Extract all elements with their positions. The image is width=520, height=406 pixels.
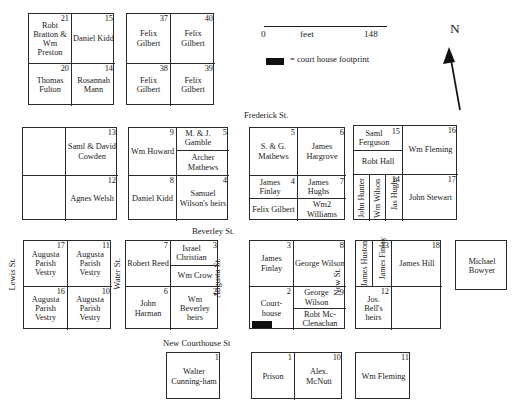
lot-7-james-hughs-wm2-williams[interactable]: James Hughs 7 Wm2 Williams xyxy=(298,176,346,221)
block-cowden-welsh: Saml & David Cowden 13 Agnes Welsh 12 xyxy=(22,127,117,220)
block-michael-bowyer[interactable]: Michael Bowyer xyxy=(455,240,507,290)
lot-owner-bottom: Wm2 Williams xyxy=(299,200,345,219)
lot-owner: George Wilson xyxy=(295,259,345,268)
lot-11-wm-fleming[interactable]: Wm Fleming 11 xyxy=(356,353,411,400)
lot-17-augusta-parish-vestry[interactable]: Augusta Parish Vestry 17 xyxy=(24,241,68,287)
lot-39-felix-gilbert[interactable]: Felix Gilbert 39 xyxy=(171,64,215,106)
lot-strip-james-huston[interactable]: James Huston xyxy=(356,241,373,287)
lot-owner: Court-house xyxy=(251,299,292,318)
lot-37-felix-gilbert[interactable]: Felix Gilbert 37 xyxy=(127,14,171,64)
legend-label: = court house footprint xyxy=(290,55,369,65)
lot-21-robt-bratton-wm-preston[interactable]: Robt Bratton & Wm Preston 21 xyxy=(29,14,72,64)
lot-6-john-harman[interactable]: John Harman 6 xyxy=(126,287,171,330)
lot-16-augusta-parish-vestry[interactable]: Augusta Parish Vestry 16 xyxy=(24,287,68,330)
lot-owner: Rosannah Mann xyxy=(73,76,114,95)
lot-owner: Prison xyxy=(262,372,283,381)
lot-15-daniel-kidd[interactable]: Daniel Kidd 15 xyxy=(72,14,115,64)
lot-owner-bottom: Robt Mc-Clenachan xyxy=(295,310,345,329)
lot-number: 16 xyxy=(57,287,65,297)
street-label-water-st: Water St. xyxy=(113,258,123,290)
lot-owner: James Hargrove xyxy=(299,142,345,161)
lot-10-alex-mcnutt[interactable]: Alex. McNutt 10 xyxy=(295,353,343,400)
lot-strip-wm-wilson[interactable]: Wm Wilson xyxy=(370,175,386,221)
block-walter-cunningham[interactable]: Walter Cunning-ham 1 xyxy=(166,352,220,399)
lot-40-felix-gilbert[interactable]: Felix Gilbert 40 xyxy=(171,14,215,64)
lot-number: 21 xyxy=(61,14,69,24)
lot-number: 13 xyxy=(108,128,116,138)
lot-3-james-finlay[interactable]: James Finlay 3 xyxy=(250,241,294,287)
lot-number: 5 xyxy=(291,128,295,138)
lot-14-rosannah-mann[interactable]: Rosannah Mann 14 xyxy=(72,64,115,106)
street-label-frederick-st: Frederick St. xyxy=(244,111,288,121)
lot-owner-bottom: Felix Gilbert xyxy=(252,205,295,214)
block-prison-mcnutt: Prison 1 Alex. McNutt 10 xyxy=(251,352,342,399)
lot-11-augusta-parish-vestry[interactable]: Augusta Parish Vestry 11 xyxy=(68,241,112,287)
lot-20-thomas-fulton[interactable]: Thomas Fulton 20 xyxy=(29,64,72,106)
lot-4-samuel-wilsons-heirs[interactable]: Samuel Wilson's heirs 4 xyxy=(177,176,229,221)
lot-1-walter-cunningham[interactable]: Walter Cunning-ham 1 xyxy=(167,353,221,400)
lot-empty-cowden-left-bottom[interactable] xyxy=(23,176,66,221)
block-howard-gamble: Wm Howard 9 M. & J. Gamble 5 Archer Math… xyxy=(128,127,228,220)
lot-15-saml-ferguson-robt-hall[interactable]: Saml Ferguson 15 Robt Hall xyxy=(354,126,403,175)
lot-18-james-hill[interactable]: James Hill 18 xyxy=(392,241,442,287)
lot-10-augusta-parish-vestry[interactable]: Augusta Parish Vestry 10 xyxy=(68,287,112,330)
lot-owner: Alex. McNutt xyxy=(296,367,342,386)
lot-number: 4 xyxy=(291,177,295,187)
lot-number: 15 xyxy=(392,127,400,137)
scale-min-label: 0 xyxy=(261,29,266,39)
lot-13-saml-david-cowden[interactable]: Saml & David Cowden 13 xyxy=(66,128,118,176)
lot-number: 11 xyxy=(401,353,409,363)
block-courthouse: James Finlay 3 George Wilson 8 Court-hou… xyxy=(249,240,345,329)
lot-number: 1 xyxy=(215,353,219,363)
lot-owner: Agnes Welsh xyxy=(70,194,114,203)
lot-9-wm-howard[interactable]: Wm Howard 9 xyxy=(129,128,177,176)
block-bratton-kidd: Robt Bratton & Wm Preston 21 Daniel Kidd… xyxy=(28,13,114,105)
lot-owner: Augusta Parish Vestry xyxy=(25,295,66,323)
block-wm-fleming-south[interactable]: Wm Fleming 11 xyxy=(355,352,410,399)
lot-9-george-wilson-robt-mcclenachan[interactable]: George Wilson 9 Robt Mc-Clenachan xyxy=(294,287,346,330)
lot-michael-bowyer[interactable]: Michael Bowyer xyxy=(456,241,508,291)
lot-14-hunter-wilson-hughs[interactable]: 14 John Hunter Wm Wilson Jas Hughs xyxy=(354,175,403,221)
lot-2-wm-beverley-heirs[interactable]: Wm Beverley heirs 2 xyxy=(171,287,219,330)
lot-number: 14 xyxy=(392,175,400,185)
lot-5-s-g-mathews[interactable]: S. & G. Mathews 5 xyxy=(250,128,298,176)
lot-number: 3 xyxy=(213,241,217,251)
lot-number: 7 xyxy=(340,177,344,187)
lot-7-robert-reed[interactable]: Robert Reed 7 xyxy=(126,241,171,287)
lot-owner: Augusta Parish Vestry xyxy=(69,295,111,323)
lot-owner: Robert Reed xyxy=(127,259,169,268)
lot-number: 10 xyxy=(102,287,110,297)
lot-16-wm-fleming[interactable]: Wm Fleming 16 xyxy=(403,126,458,175)
lot-empty-cowden-left-top[interactable] xyxy=(23,128,66,176)
lot-owner-top: James Hughs xyxy=(299,178,345,197)
plat-map-canvas: 0 feet 148 = court house footprint N Fre… xyxy=(0,0,520,406)
lot-1-prison[interactable]: Prison 1 xyxy=(252,353,295,400)
lot-strip-john-hunter[interactable]: John Hunter xyxy=(354,175,370,221)
lot-2-courthouse[interactable]: Court-house 2 xyxy=(250,287,294,330)
lot-owner: Felix Gilbert xyxy=(172,76,214,95)
lot-6-james-hargrove[interactable]: James Hargrove 6 xyxy=(298,128,346,176)
street-label-beverley-st: Beverley St. xyxy=(192,227,234,237)
lot-12-jos-bells-heirs[interactable]: Jos. Bell's heirs 12 xyxy=(356,287,392,330)
lot-number: 17 xyxy=(57,241,65,251)
lot-4-james-finlay-felix-gilbert[interactable]: James Finlay 4 Felix Gilbert xyxy=(250,176,298,221)
lot-number: 40 xyxy=(205,14,213,24)
lot-5-gamble-archer-mathews[interactable]: M. & J. Gamble 5 Archer Mathews xyxy=(177,128,229,176)
lot-12-agnes-welsh[interactable]: Agnes Welsh 12 xyxy=(66,176,118,221)
lot-13-james-finlay[interactable]: James Finlay 13 xyxy=(373,241,392,287)
north-label: N xyxy=(450,22,460,36)
lot-8-george-wilson[interactable]: George Wilson 8 xyxy=(294,241,346,287)
scale-unit-label: feet xyxy=(300,29,314,39)
lot-number: 13 xyxy=(381,241,389,251)
lot-8-daniel-kidd[interactable]: Daniel Kidd 8 xyxy=(129,176,177,221)
lot-number: 39 xyxy=(205,64,213,74)
lot-17-john-stewart[interactable]: John Stewart 17 xyxy=(403,175,458,221)
lot-3-israel-christian-wm-crow[interactable]: Israel Christian 3 Wm Crow xyxy=(171,241,219,287)
lot-number: 12 xyxy=(108,176,116,186)
lot-number: 9 xyxy=(340,288,344,298)
lot-owner: Daniel Kidd xyxy=(132,194,173,203)
lot-number: 12 xyxy=(381,287,389,297)
lot-empty-huston-bottom-right[interactable] xyxy=(392,287,442,330)
lot-38-felix-gilbert[interactable]: Felix Gilbert 38 xyxy=(127,64,171,106)
lot-owner: Robt Bratton & Wm Preston xyxy=(30,21,70,57)
